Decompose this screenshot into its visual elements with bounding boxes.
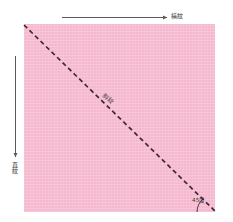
- label-angle-45: 45度: [192, 197, 206, 203]
- label-lengthwise-grain: 直紋: [11, 162, 17, 174]
- diagram-overlay: [0, 0, 233, 222]
- bias-dashed-line: [24, 25, 216, 212]
- fabric-grain-diagram: 橫紋 直紋 斜紋 45度: [0, 0, 233, 222]
- label-crosswise-grain: 橫紋: [171, 13, 183, 20]
